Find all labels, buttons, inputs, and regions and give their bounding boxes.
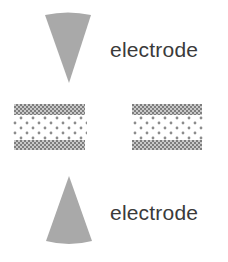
left-sample-bottom-band: [14, 140, 85, 150]
right-sample-bottom-band: [132, 140, 202, 150]
top-electrode-label: electrode: [110, 39, 198, 60]
bottom-electrode-label: electrode: [110, 202, 198, 223]
left-sample-top-band: [14, 104, 85, 115]
top-electrode-cone: [45, 13, 91, 84]
bottom-electrode-cone: [46, 176, 92, 244]
right-sample: [131, 104, 204, 150]
left-sample: [13, 104, 87, 150]
right-sample-core: [131, 115, 204, 140]
left-sample-core: [13, 115, 87, 140]
right-sample-top-band: [132, 104, 202, 115]
